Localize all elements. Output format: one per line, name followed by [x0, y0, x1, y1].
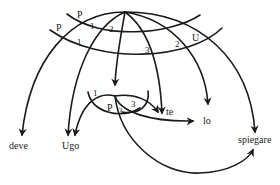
inner-label-p: P — [107, 102, 113, 113]
label-2-right: 2 — [175, 39, 180, 49]
word-te: te — [166, 106, 174, 117]
label-1-upper: 1 — [90, 21, 95, 31]
label-p-upper: P — [77, 9, 83, 20]
label-2-upper: 2 — [109, 24, 114, 34]
label-1-lower: 1 — [77, 37, 82, 47]
inner-arc-to-spiegare — [115, 96, 253, 173]
label-3: 3 — [145, 45, 150, 55]
word-spiegare: spiegare — [238, 134, 272, 145]
word-ugo: Ugo — [62, 140, 79, 151]
arc-to-te — [125, 12, 162, 113]
label-p-lower: P — [56, 22, 62, 33]
inner-arc-to-lo — [115, 96, 193, 121]
word-lo: lo — [203, 115, 211, 126]
inner-label-1: 1 — [93, 88, 98, 98]
upper-crossbar — [67, 14, 200, 32]
inner-label-2: 2 — [118, 106, 123, 116]
inner-label-3: 3 — [131, 99, 136, 109]
arc-to-inner-node — [115, 12, 125, 85]
arc-to-lo — [125, 12, 208, 104]
word-deve: deve — [9, 140, 28, 151]
label-u: U — [192, 32, 200, 43]
arc-to-spiegare — [125, 12, 255, 132]
dependency-diagram: P P 1 2 1 3 2 U 1 P 2 3 deve Ugo te lo s… — [0, 0, 280, 185]
